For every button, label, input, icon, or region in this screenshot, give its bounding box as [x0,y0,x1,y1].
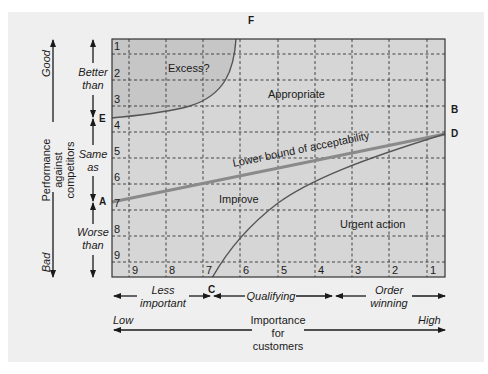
x-tick-5: 5 [281,264,287,277]
y-tick-1: 1 [114,40,120,53]
y-tick-7: 7 [114,197,120,210]
point-a-label: A [99,195,106,208]
y-tick-2: 2 [114,67,120,80]
y-tick-4: 4 [114,119,120,132]
excess-zone-label: Excess? [168,62,210,75]
y-tick-6: 6 [114,171,120,184]
improve-zone-label: Improve [219,193,259,206]
point-d-label: D [451,127,458,140]
y-band-worse: Worse than [72,226,114,252]
y-tick-8: 8 [114,223,120,236]
y-tick-3: 3 [114,93,120,106]
x-band-order-winning: Order winning [366,284,412,310]
y-band-better: Better than [72,66,114,92]
x-tick-6: 6 [243,264,249,277]
x-tick-8: 8 [169,264,175,277]
x-tick-7: 7 [206,264,212,277]
good-label: Good [40,44,53,84]
x-band-less-important: Less important [138,284,188,310]
y-tick-5: 5 [114,145,120,158]
high-label: High [418,314,441,327]
y-tick-9: 9 [114,249,120,262]
point-b-label: B [451,103,458,116]
low-label: Low [113,314,133,327]
x-tick-1: 1 [430,264,436,277]
x-axis-title: Importance for customers [248,314,308,353]
x-band-qualifying: Qualifying [245,290,297,303]
point-c-label: C [208,283,215,296]
y-band-same: Same as [72,148,114,174]
bad-label: Bad [40,243,53,283]
point-e-label: E [99,112,106,125]
x-tick-4: 4 [318,264,324,277]
x-tick-9: 9 [132,264,138,277]
appropriate-zone-label: Appropriate [268,88,325,101]
x-tick-2: 2 [392,264,398,277]
x-tick-3: 3 [355,264,361,277]
urgent-zone-label: Urgent action [340,218,405,231]
point-f-label: F [248,14,254,27]
